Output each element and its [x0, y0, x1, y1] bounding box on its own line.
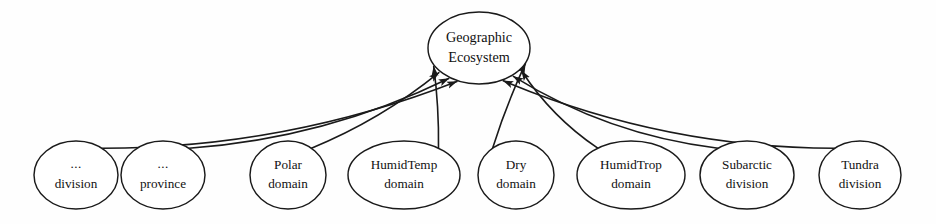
node-outline-humidtrop-domain: [577, 141, 685, 209]
node-humidtrop-domain: HumidTropdomain: [577, 141, 685, 209]
node-label-line2-humidtemp-domain: domain: [384, 176, 424, 191]
node-label-line2-geographic-ecosystem: Ecosystem: [448, 49, 509, 65]
edge-humidtrop-domain-to-geographic-ecosystem: [521, 71, 597, 148]
node-division-generic: ...division: [34, 141, 118, 209]
node-humidtemp-domain: HumidTempdomain: [348, 141, 460, 209]
node-tundra-division: Tundradivision: [819, 141, 901, 209]
node-label-line1-tundra-division: Tundra: [841, 157, 879, 172]
node-label-line1-polar-domain: Polar: [274, 157, 302, 172]
node-province-generic: ...province: [121, 141, 205, 209]
node-label-line1-division-generic: ...: [70, 156, 81, 171]
ecosystem-hierarchy-diagram: ...division...provincePolardomainHumidTe…: [0, 0, 936, 224]
edge-polar-domain-to-geographic-ecosystem: [311, 73, 438, 149]
node-label-line2-division-generic: division: [55, 176, 98, 191]
node-label-line1-dry-domain: Dry: [506, 157, 527, 172]
node-dry-domain: Drydomain: [478, 141, 554, 209]
node-label-line2-tundra-division: division: [839, 176, 882, 191]
node-outline-geographic-ecosystem: [428, 12, 530, 84]
node-outline-subarctic-division: [700, 141, 794, 209]
node-outline-tundra-division: [819, 141, 901, 209]
node-label-line2-province-generic: province: [140, 176, 186, 191]
edge-province-generic-to-geographic-ecosystem: [189, 78, 449, 148]
node-outline-dry-domain: [478, 141, 554, 209]
node-label-line1-humidtemp-domain: HumidTemp: [371, 157, 438, 172]
node-polar-domain: Polardomain: [250, 141, 326, 209]
node-label-line2-subarctic-division: division: [726, 176, 769, 191]
node-outline-humidtemp-domain: [348, 141, 460, 209]
node-outline-division-generic: [34, 141, 118, 209]
node-label-line2-humidtrop-domain: domain: [611, 176, 651, 191]
edge-tundra-division-to-geographic-ecosystem: [503, 81, 835, 148]
edge-humidtemp-domain-to-geographic-ecosystem: [434, 66, 439, 148]
node-subarctic-division: Subarcticdivision: [700, 141, 794, 209]
node-label-line2-polar-domain: domain: [268, 176, 308, 191]
node-outline-province-generic: [121, 141, 205, 209]
node-label-line1-geographic-ecosystem: Geographic: [446, 29, 512, 45]
node-label-line1-subarctic-division: Subarctic: [722, 157, 772, 172]
diagram-canvas: ...division...provincePolardomainHumidTe…: [0, 0, 936, 224]
node-label-line1-province-generic: ...: [157, 156, 168, 171]
node-label-line2-dry-domain: domain: [496, 176, 536, 191]
node-geographic-ecosystem: GeographicEcosystem: [428, 12, 530, 84]
node-label-line1-humidtrop-domain: HumidTrop: [600, 157, 662, 172]
node-layer: ...division...provincePolardomainHumidTe…: [34, 12, 901, 209]
edge-subarctic-division-to-geographic-ecosystem: [513, 76, 718, 148]
node-outline-polar-domain: [250, 141, 326, 209]
edge-division-generic-to-geographic-ecosystem: [102, 81, 457, 148]
